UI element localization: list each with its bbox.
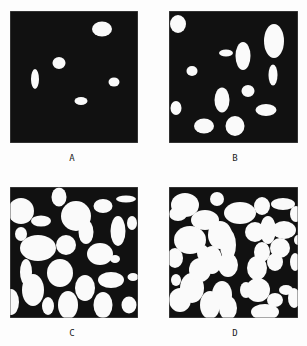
particle-ellipse bbox=[200, 291, 220, 319]
particle-ellipse bbox=[171, 274, 181, 286]
particle-ellipse bbox=[194, 119, 214, 134]
particle-ellipse bbox=[20, 235, 56, 261]
panel-label-a: A bbox=[62, 153, 82, 163]
particle-ellipse bbox=[128, 273, 139, 281]
particle-ellipse bbox=[8, 198, 34, 224]
particle-ellipse bbox=[271, 198, 295, 210]
particle-ellipse bbox=[267, 253, 283, 271]
particle-ellipse bbox=[218, 253, 238, 277]
particle-ellipse bbox=[92, 22, 112, 37]
particle-ellipse bbox=[127, 216, 137, 230]
particle-ellipse bbox=[47, 259, 73, 287]
particle-ellipse bbox=[122, 297, 137, 314]
particle-ellipse bbox=[52, 188, 67, 207]
particle-ellipse bbox=[215, 88, 230, 113]
particle-ellipse bbox=[226, 116, 245, 136]
panel-a bbox=[10, 11, 138, 143]
particle-ellipse bbox=[219, 50, 233, 57]
particle-ellipse bbox=[236, 42, 251, 70]
particle-ellipse bbox=[189, 258, 211, 282]
panels-layer bbox=[3, 11, 302, 320]
particle-ellipse bbox=[224, 202, 256, 224]
particle-ellipse bbox=[87, 243, 113, 265]
panel-label-b: B bbox=[225, 153, 245, 163]
particle-ellipse bbox=[169, 207, 187, 221]
particle-ellipse bbox=[290, 253, 300, 271]
particle-ellipse bbox=[256, 104, 277, 116]
particle-ellipse bbox=[242, 85, 255, 97]
particle-ellipse bbox=[3, 289, 19, 315]
particle-ellipse bbox=[254, 197, 270, 215]
particle-ellipse bbox=[94, 199, 113, 213]
particle-ellipse bbox=[31, 69, 39, 89]
particle-ellipse bbox=[279, 285, 293, 295]
panel-background bbox=[10, 11, 138, 143]
particle-ellipse bbox=[290, 206, 302, 222]
particle-ellipse bbox=[22, 274, 44, 306]
particle-ellipse bbox=[31, 216, 51, 227]
particle-ellipse bbox=[210, 192, 224, 206]
particle-ellipse bbox=[80, 233, 92, 243]
particle-ellipse bbox=[197, 245, 209, 261]
particle-ellipse bbox=[110, 255, 120, 263]
particle-ellipse bbox=[42, 297, 54, 315]
panel-b bbox=[169, 11, 298, 143]
particle-ellipse bbox=[247, 256, 267, 280]
particle-ellipse bbox=[109, 78, 120, 87]
particle-ellipse bbox=[56, 235, 76, 255]
particle-ellipse bbox=[75, 275, 95, 301]
particle-ellipse bbox=[171, 101, 182, 115]
particle-ellipse bbox=[264, 24, 284, 58]
particle-ellipse bbox=[98, 272, 124, 288]
particle-ellipse bbox=[170, 15, 186, 33]
panel-label-c: C bbox=[62, 328, 82, 338]
particle-ellipse bbox=[111, 216, 126, 246]
particle-ellipse bbox=[272, 221, 296, 239]
particle-ellipse bbox=[94, 292, 113, 318]
particle-ellipse bbox=[269, 65, 278, 86]
particle-ellipse bbox=[53, 57, 66, 69]
particle-figure bbox=[0, 0, 307, 346]
particle-ellipse bbox=[75, 97, 88, 105]
particle-ellipse bbox=[187, 66, 198, 76]
particle-ellipse bbox=[219, 296, 237, 320]
particle-ellipse bbox=[58, 291, 78, 319]
panel-label-d: D bbox=[225, 328, 245, 338]
particle-ellipse bbox=[169, 288, 191, 312]
particle-ellipse bbox=[240, 282, 252, 298]
particle-ellipse bbox=[116, 196, 136, 203]
panel-d bbox=[167, 187, 302, 320]
panel-c bbox=[3, 187, 139, 319]
